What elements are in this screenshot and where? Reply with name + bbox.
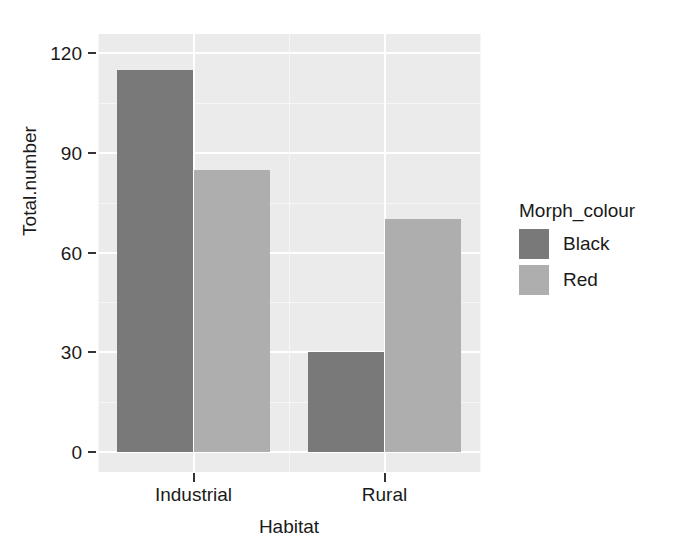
legend-entries: BlackRed [519,229,635,295]
x-tick-mark [384,473,386,482]
y-tick-mark [88,52,96,54]
y-tick-label: 0 [30,443,82,462]
x-axis-label: Habitat [98,516,480,538]
x-tick-label-industrial: Industrial [155,484,232,506]
legend-label: Red [563,269,598,291]
bar-black-industrial [117,70,193,452]
y-tick-mark [88,252,96,254]
y-axis-label: Total.number [19,71,41,291]
bar-chart: 0306090120 Total.number IndustrialRural … [0,0,681,560]
gridline-vertical-minor [289,34,290,472]
bar-black-rural [308,352,384,452]
gridline-vertical-minor [98,34,99,472]
y-tick-label: 30 [30,343,82,362]
plot-panel [98,34,480,472]
legend: Morph_colour BlackRed [519,200,635,301]
x-tick-label-rural: Rural [362,484,407,506]
legend-title: Morph_colour [519,200,635,222]
legend-swatch-red [519,265,549,295]
y-tick-mark [88,451,96,453]
x-tick-mark [193,473,195,482]
legend-item-red: Red [519,265,635,295]
legend-item-black: Black [519,229,635,259]
y-tick-label: 120 [30,44,82,63]
bar-red-industrial [194,170,270,452]
legend-swatch-black [519,229,549,259]
bar-red-rural [385,219,461,452]
gridline-vertical-minor [480,34,481,472]
y-tick-mark [88,152,96,154]
y-tick-mark [88,351,96,353]
legend-label: Black [563,233,609,255]
